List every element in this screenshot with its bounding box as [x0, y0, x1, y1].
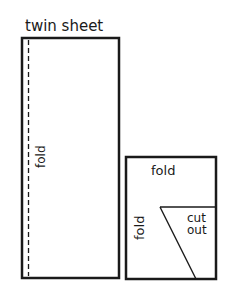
cutout-label-line2: out [187, 223, 207, 237]
side-fold-label: fold [132, 216, 147, 240]
twin-sheet-title: twin sheet [25, 17, 103, 35]
sheet-diagram: twin sheet fold fold fold cut out [0, 0, 229, 298]
large-fold-label: fold [34, 145, 48, 168]
top-fold-label: fold [151, 163, 175, 178]
